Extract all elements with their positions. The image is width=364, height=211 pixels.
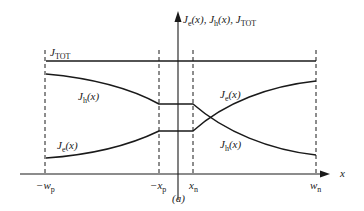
label-j-h-right: Jh(x)	[220, 139, 241, 153]
label-j-e-right: Je(x)	[220, 89, 241, 103]
label-j-e-left: Je(x)	[57, 140, 78, 154]
tick-neg-xp: −xp	[150, 180, 166, 194]
tick-neg-wp: −wp	[36, 180, 55, 194]
y-axis-label: Je(x), Jh(x), JTOT	[183, 14, 256, 28]
curve-j-h	[46, 74, 316, 155]
label-j-h-left: Jh(x)	[78, 91, 99, 105]
tick-xn: xn	[189, 180, 198, 194]
x-axis-label: x	[340, 168, 345, 179]
tick-wn: wn	[310, 180, 321, 194]
y-axis-arrow-icon	[175, 11, 182, 22]
pn-junction-current-diagram: Je(x), Jh(x), JTOT JTOT Jh(x) Je(x) Je(x…	[0, 0, 364, 211]
label-j-tot: JTOT	[50, 47, 70, 61]
figure-caption: (a)	[172, 193, 185, 204]
x-axis-arrow-icon	[320, 171, 330, 178]
